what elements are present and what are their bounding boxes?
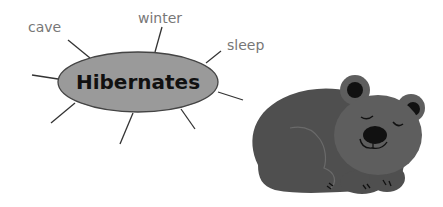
word-web-diagram: Hibernates cave winter sleep <box>0 0 443 207</box>
spoke-empty-left <box>32 75 58 79</box>
bear-nose <box>363 126 387 144</box>
label-sleep: sleep <box>227 37 264 53</box>
spoke-empty-right <box>218 92 243 100</box>
spoke-empty-bottom-right <box>181 109 195 129</box>
spoke-empty-bottom-left <box>51 103 75 123</box>
spoke-sleep <box>206 51 221 63</box>
center-label: Hibernates <box>76 70 200 94</box>
bear-ear-left-inner <box>347 82 363 98</box>
spoke-cave <box>68 40 90 58</box>
sleeping-bear-image <box>252 75 425 194</box>
label-winter: winter <box>138 10 182 26</box>
label-cave: cave <box>28 19 61 35</box>
spoke-empty-bottom <box>120 113 133 144</box>
spoke-winter <box>155 27 162 52</box>
